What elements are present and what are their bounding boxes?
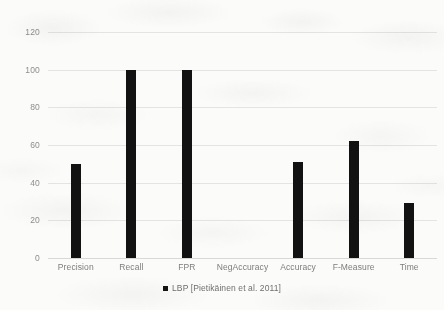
y-axis-tick-label: 0 (35, 253, 40, 263)
bar[interactable] (71, 164, 81, 258)
bar-slot (381, 32, 437, 258)
bar[interactable] (404, 203, 414, 258)
x-axis-category-label: FPR (178, 262, 195, 272)
x-axis-category-label: Recall (119, 262, 143, 272)
bar-slot (104, 32, 160, 258)
bar-slot (48, 32, 104, 258)
plot-area (48, 32, 437, 258)
x-axis-category-label: Time (400, 262, 419, 272)
bar[interactable] (126, 70, 136, 258)
x-axis-category-label: NegAccuracy (217, 262, 269, 272)
chart-legend: LBP [Pietikäinen et al. 2011] (0, 283, 444, 293)
x-axis-category-labels: PrecisionRecallFPRNegAccuracyAccuracyF-M… (48, 262, 437, 276)
y-axis-tick-labels: 020406080100120 (0, 32, 40, 258)
bars-layer (48, 32, 437, 258)
x-axis-category-label: Precision (58, 262, 94, 272)
bar[interactable] (182, 70, 192, 258)
legend-label: LBP [Pietikäinen et al. 2011] (172, 283, 281, 293)
bar-slot (326, 32, 382, 258)
gridline (48, 258, 437, 259)
bar[interactable] (349, 141, 359, 258)
y-axis-tick-label: 20 (30, 215, 40, 225)
bar-slot (270, 32, 326, 258)
legend-square-marker-icon (163, 286, 168, 291)
bar-slot (215, 32, 271, 258)
y-axis-tick-label: 60 (30, 140, 40, 150)
bar-chart: 020406080100120 PrecisionRecallFPRNegAcc… (0, 0, 444, 310)
bar[interactable] (293, 162, 303, 258)
y-axis-tick-label: 120 (25, 27, 40, 37)
x-axis-category-label: Accuracy (280, 262, 316, 272)
y-axis-tick-label: 100 (25, 65, 40, 75)
y-axis-tick-label: 80 (30, 102, 40, 112)
x-axis-category-label: F-Measure (333, 262, 375, 272)
y-axis-tick-label: 40 (30, 178, 40, 188)
bar-slot (159, 32, 215, 258)
